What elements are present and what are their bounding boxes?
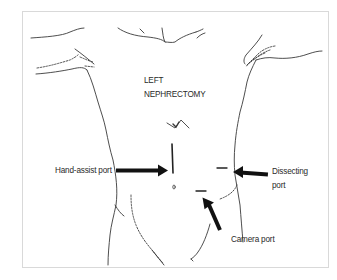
left-inguinal-dotted [131,195,163,263]
neck-tick-left [140,29,144,33]
xiphoid-mark-bold [173,122,179,127]
right-axilla-dotted-2 [246,50,270,67]
left-arm-outline [36,68,87,74]
dissecting-port-label-line-2: port [272,178,285,192]
left-axilla-dotted-2 [85,66,94,67]
sternal-notch-line [162,28,196,42]
right-torso-outline [234,60,256,242]
umbilicus [173,185,175,189]
right-axilla-dotted-1 [246,46,275,66]
torso-illustration [0,0,337,280]
hand-assist-incision [172,144,173,173]
right-inguinal-tick [191,259,193,261]
dissecting-port-label-line-1: Dissecting [272,164,308,178]
left-arm-dotted-line [37,54,79,68]
left-shoulder-line [31,28,84,38]
camera-port-label: Camera port [231,232,275,246]
hand-assist-arrow [116,165,168,177]
right-lower-dotted [220,185,237,199]
right-inguinal-line [191,224,210,259]
right-arm-outline [256,51,322,60]
hand-assist-port-label: Hand-assist port [55,163,112,177]
title-line-1: LEFT [144,73,206,87]
left-flank-crease [115,205,124,216]
dissecting-port-arrow [233,166,268,178]
left-inguinal-solid [152,250,164,265]
right-clavicle-tick [197,33,205,38]
camera-port-arrow [202,196,220,230]
figure-title: LEFT NEPHRECTOMY [144,73,206,101]
right-clavicle-line [196,29,203,32]
title-line-2: NEPHRECTOMY [144,87,206,101]
